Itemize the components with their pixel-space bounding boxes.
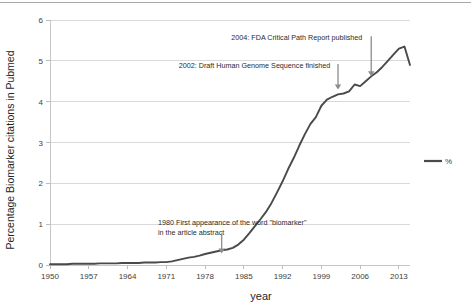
data-series-group: [50, 47, 410, 265]
y-tick-label-6: 6: [39, 16, 44, 25]
x-axis-ticks-group: 1950195719641971197819851992199920062013: [41, 265, 408, 281]
annotation-1980-line-2: in the article abstract: [158, 228, 224, 237]
y-axis-title: Percentage Biomarker citations in Pubmed: [4, 50, 16, 249]
x-tick-label-1957: 1957: [80, 272, 98, 281]
top-divider-rule: [0, 2, 471, 3]
annotation-2002-line-1: 2002: Draft Human Genome Sequence finish…: [179, 61, 330, 70]
x-tick-label-1971: 1971: [157, 272, 175, 281]
annotation-1980-line-1: 1980 First appearance of the word "bioma…: [158, 218, 307, 227]
annotation-2002: 2002: Draft Human Genome Sequence finish…: [179, 61, 341, 89]
y-axis-ticks-group: 0123456: [39, 16, 50, 270]
x-tick-label-1964: 1964: [119, 272, 137, 281]
y-tick-label-5: 5: [39, 57, 44, 66]
chart-legend: %: [424, 157, 452, 166]
gridlines-group: [50, 20, 410, 265]
x-tick-label-2006: 2006: [351, 272, 369, 281]
y-tick-label-0: 0: [39, 261, 44, 270]
x-tick-label-1992: 1992: [274, 272, 292, 281]
annotation-2002-arrow-head: [335, 84, 341, 89]
y-tick-label-2: 2: [39, 179, 44, 188]
annotation-2004-line-1: 2004: FDA Critical Path Report published: [231, 33, 362, 42]
x-tick-label-1978: 1978: [196, 272, 214, 281]
y-tick-label-4: 4: [39, 98, 44, 107]
y-tick-label-1: 1: [39, 220, 44, 229]
x-tick-label-1985: 1985: [235, 272, 253, 281]
annotations-group: 1980 First appearance of the word "bioma…: [158, 33, 374, 253]
x-axis-title: year: [250, 290, 272, 302]
x-tick-label-1999: 1999: [312, 272, 330, 281]
legend-label-%: %: [445, 157, 452, 166]
data-line-%: [50, 47, 410, 265]
x-tick-label-2013: 2013: [390, 272, 408, 281]
x-tick-label-1950: 1950: [41, 272, 59, 281]
chart-figure: 0123456 19501957196419711978198519921999…: [0, 0, 471, 307]
y-tick-label-3: 3: [39, 139, 44, 148]
biomarker-citations-line-chart: 0123456 19501957196419711978198519921999…: [0, 0, 471, 307]
